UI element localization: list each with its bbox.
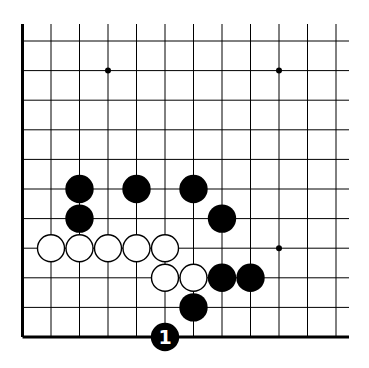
white-stone: [180, 264, 207, 291]
star-point-icon: [276, 68, 282, 74]
go-board: 1: [0, 0, 369, 368]
white-stone: [123, 235, 150, 262]
star-point-icon: [276, 245, 282, 251]
white-stone: [152, 264, 179, 291]
black-stone: [65, 175, 93, 203]
white-stone-icon: [180, 264, 207, 291]
black-stone-icon: [65, 204, 93, 232]
black-stone: [208, 264, 236, 292]
black-stone: [236, 264, 264, 292]
move-number-label: 1: [158, 326, 171, 348]
white-stone: [95, 235, 122, 262]
black-stone-icon: [208, 204, 236, 232]
white-stone-icon: [123, 235, 150, 262]
black-stone-move-1: 1: [151, 323, 179, 351]
white-stone: [38, 235, 65, 262]
white-stone-icon: [66, 235, 93, 262]
white-stone-icon: [38, 235, 65, 262]
black-stone-icon: [179, 293, 207, 321]
star-point-icon: [105, 68, 111, 74]
white-stone: [66, 235, 93, 262]
black-stone: [208, 204, 236, 232]
white-stone-icon: [152, 235, 179, 262]
black-stone-icon: [236, 264, 264, 292]
black-stone-icon: [122, 175, 150, 203]
white-stone-icon: [152, 264, 179, 291]
black-stone: [179, 175, 207, 203]
black-stone-icon: [208, 264, 236, 292]
black-stone-icon: [65, 175, 93, 203]
black-stone: [65, 204, 93, 232]
black-stone-icon: [179, 175, 207, 203]
white-stone: [152, 235, 179, 262]
black-stone: [122, 175, 150, 203]
white-stone-icon: [95, 235, 122, 262]
stones: 1: [38, 175, 265, 351]
black-stone: [179, 293, 207, 321]
